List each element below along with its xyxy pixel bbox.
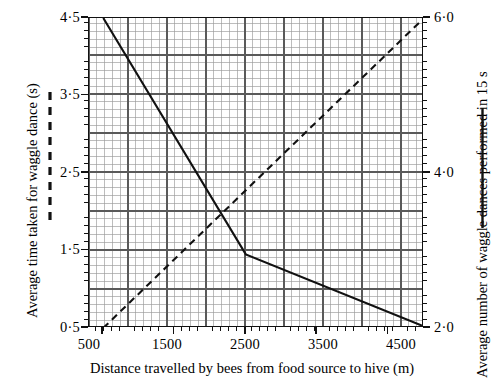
y-right-tick-2-0: 2·0 bbox=[434, 320, 470, 335]
x-minor-tickmark-22 bbox=[259, 327, 260, 331]
dashed-line-key bbox=[46, 92, 54, 220]
y-left-minor-tickmark-27 bbox=[84, 116, 88, 117]
y-left-minor-tickmark-22 bbox=[84, 155, 88, 156]
x-minor-tickmark-2 bbox=[103, 327, 104, 331]
y-left-tickmark-2 bbox=[81, 171, 88, 173]
y-right-minor-tickmark-11 bbox=[423, 241, 427, 242]
y-right-minor-tickmark-29 bbox=[423, 100, 427, 101]
y-left-minor-tickmark-16 bbox=[84, 202, 88, 203]
y-left-minor-tickmark-14 bbox=[84, 217, 88, 218]
x-tickmark-2 bbox=[244, 327, 246, 334]
y-right-minor-tickmark-2 bbox=[423, 311, 427, 312]
y-right-tickmark-2 bbox=[423, 16, 430, 18]
y-right-minor-tickmark-28 bbox=[423, 108, 427, 109]
x-tick-3500: 3500 bbox=[293, 337, 353, 352]
y-left-minor-tickmark-31 bbox=[84, 85, 88, 86]
y-left-minor-tickmark-34 bbox=[84, 61, 88, 62]
y-right-tick-4-0: 4·0 bbox=[434, 165, 470, 180]
y-right-minor-tickmark-17 bbox=[423, 194, 427, 195]
x-minor-tickmark-1 bbox=[95, 327, 96, 331]
y-left-minor-tickmark-33 bbox=[84, 69, 88, 70]
x-minor-tickmark-36 bbox=[368, 327, 369, 331]
x-minor-tickmark-16 bbox=[212, 327, 213, 331]
y-left-tick-0-5: 0·5 bbox=[44, 320, 80, 335]
y-right-minor-tickmark-39 bbox=[423, 22, 427, 23]
y-right-minor-tickmark-36 bbox=[423, 46, 427, 47]
y-right-minor-tickmark-9 bbox=[423, 256, 427, 257]
solid-line-key bbox=[479, 108, 486, 228]
x-axis-title: Distance travelled by bees from food sou… bbox=[0, 360, 504, 377]
y-right-minor-tickmark-34 bbox=[423, 61, 427, 62]
y-right-minor-tickmark-14 bbox=[423, 217, 427, 218]
y-left-tick-4-5: 4·5 bbox=[44, 10, 80, 25]
x-minor-tickmark-6 bbox=[134, 327, 135, 331]
y-left-minor-tickmark-18 bbox=[84, 186, 88, 187]
x-minor-tickmark-28 bbox=[306, 327, 307, 331]
x-minor-tickmark-23 bbox=[267, 327, 268, 331]
y-left-minor-tickmark-24 bbox=[84, 139, 88, 140]
y-left-minor-tickmark-23 bbox=[84, 147, 88, 148]
y-left-minor-tickmark-19 bbox=[84, 178, 88, 179]
y-left-minor-tickmark-11 bbox=[84, 241, 88, 242]
y-left-minor-tickmark-28 bbox=[84, 108, 88, 109]
x-tick-1500: 1500 bbox=[137, 337, 197, 352]
x-minor-tickmark-33 bbox=[345, 327, 346, 331]
y-left-minor-tickmark-32 bbox=[84, 77, 88, 78]
y-left-minor-tickmark-3 bbox=[84, 303, 88, 304]
y-right-minor-tickmark-8 bbox=[423, 264, 427, 265]
y-right-minor-tickmark-18 bbox=[423, 186, 427, 187]
y-left-tickmark-1 bbox=[81, 249, 88, 251]
x-minor-tickmark-34 bbox=[353, 327, 354, 331]
x-tick-500: 500 bbox=[59, 337, 119, 352]
y-left-minor-tickmark-2 bbox=[84, 311, 88, 312]
x-minor-tickmark-41 bbox=[407, 327, 408, 331]
x-minor-tickmark-19 bbox=[236, 327, 237, 331]
x-minor-tickmark-29 bbox=[314, 327, 315, 331]
x-minor-tickmark-31 bbox=[329, 327, 330, 331]
y-right-minor-tickmark-7 bbox=[423, 272, 427, 273]
y-right-minor-tickmark-21 bbox=[423, 163, 427, 164]
y-right-minor-tickmark-3 bbox=[423, 303, 427, 304]
x-tickmark-4 bbox=[387, 327, 389, 334]
y-left-minor-tickmark-13 bbox=[84, 225, 88, 226]
y-left-tickmark-3 bbox=[81, 94, 88, 96]
y-right-minor-tickmark-6 bbox=[423, 280, 427, 281]
y-right-tickmark-0 bbox=[423, 326, 430, 328]
y-right-minor-tickmark-19 bbox=[423, 178, 427, 179]
y-right-tick-6-0: 6·0 bbox=[434, 10, 470, 25]
x-minor-tickmark-18 bbox=[228, 327, 229, 331]
x-minor-tickmark-21 bbox=[251, 327, 252, 331]
x-minor-tickmark-32 bbox=[337, 327, 338, 331]
y-left-minor-tickmark-36 bbox=[84, 46, 88, 47]
x-minor-tickmark-37 bbox=[376, 327, 377, 331]
chart-figure: 4·5 3·5 2·5 1·5 0·5 6·0 4·0 2·0 500 1500… bbox=[0, 0, 504, 392]
x-minor-tickmark-27 bbox=[298, 327, 299, 331]
x-minor-tickmark-11 bbox=[173, 327, 174, 331]
y-left-minor-tickmark-8 bbox=[84, 264, 88, 265]
y-left-minor-tickmark-37 bbox=[84, 38, 88, 39]
plot-area bbox=[88, 17, 423, 327]
x-minor-tickmark-8 bbox=[150, 327, 151, 331]
y-left-minor-tickmark-38 bbox=[84, 30, 88, 31]
series-line-dance-count bbox=[103, 18, 423, 327]
y-left-minor-tickmark-29 bbox=[84, 100, 88, 101]
x-minor-tickmark-4 bbox=[119, 327, 120, 331]
x-minor-tickmark-12 bbox=[181, 327, 182, 331]
y-right-minor-tickmark-31 bbox=[423, 85, 427, 86]
y-left-minor-tickmark-4 bbox=[84, 295, 88, 296]
y-right-minor-tickmark-22 bbox=[423, 155, 427, 156]
x-minor-tickmark-3 bbox=[111, 327, 112, 331]
y-right-minor-tickmark-12 bbox=[423, 233, 427, 234]
y-right-minor-tickmark-16 bbox=[423, 202, 427, 203]
y-left-minor-tickmark-6 bbox=[84, 280, 88, 281]
y-right-minor-tickmark-27 bbox=[423, 116, 427, 117]
y-right-minor-tickmark-23 bbox=[423, 147, 427, 148]
y-left-minor-tickmark-21 bbox=[84, 163, 88, 164]
y-left-tick-1-5: 1·5 bbox=[44, 242, 80, 257]
x-minor-tickmark-13 bbox=[189, 327, 190, 331]
x-minor-tickmark-38 bbox=[384, 327, 385, 331]
y-right-minor-tickmark-4 bbox=[423, 295, 427, 296]
x-minor-tickmark-39 bbox=[392, 327, 393, 331]
y-left-minor-tickmark-17 bbox=[84, 194, 88, 195]
x-tickmark-3 bbox=[315, 327, 317, 334]
